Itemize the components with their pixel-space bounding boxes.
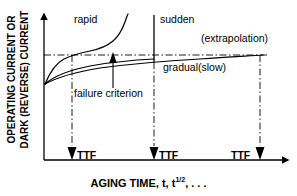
x-axis-label-superscript: 1/2 [175,176,185,183]
y-axis-label-line2: DARK (REVERSE) CURRENT [18,0,31,165]
y-axis-label-line1: OPERATING CURRENT OR [6,0,19,165]
annotation-failure-criterion: failure criterion [74,88,143,99]
annotation-rapid: rapid [74,14,97,25]
figure-root: rapid sudden (extrapolation) gradual(slo… [0,0,297,196]
x-axis-label-tail: , . . . [185,177,206,189]
curve-sudden [45,59,154,84]
annotation-ttf-2: TTF [159,150,178,161]
annotation-sudden: sudden [160,14,194,25]
x-axis-label: AGING TIME, t, t1/2, . . . [0,176,297,189]
ttf-2-arrow-icon [150,147,159,160]
annotation-gradual-slow: gradual(slow) [163,62,226,73]
annotation-ttf-3: TTF [231,150,250,161]
failure-criterion-arrow [109,52,117,88]
y-axis-label: OPERATING CURRENT OR DARK (REVERSE) CURR… [6,0,31,165]
ttf-3-arrow-icon [256,147,265,160]
ttf-1-arrow-icon [68,147,77,160]
annotation-ttf-1: TTF [77,150,96,161]
chart-plot-area [0,0,297,196]
annotation-extrapolation: (extrapolation) [201,33,268,44]
x-axis-label-main: AGING TIME, t, t [90,177,175,189]
